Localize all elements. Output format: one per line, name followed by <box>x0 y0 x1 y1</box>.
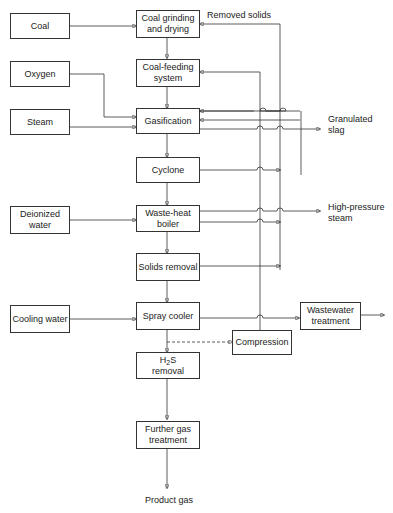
granulated-slag-label: Granulated slag <box>328 114 378 136</box>
steam-input-box: Steam <box>10 109 70 135</box>
spray-cooler-label: Spray cooler <box>143 311 194 322</box>
further-gas-treatment-box: Further gas treatment <box>136 421 200 449</box>
further-gas-label: Further gas treatment <box>138 424 198 446</box>
wastewater-label: Wastewater treatment <box>302 305 359 327</box>
wastewater-treatment-box: Wastewater treatment <box>300 302 361 330</box>
cyclone-label: Cyclone <box>152 165 185 176</box>
deionized-water-input-box: Deionized water <box>10 206 70 234</box>
h2s-suffix: S <box>170 355 176 365</box>
waste-heat-boiler-label: Waste-heat boiler <box>138 208 198 230</box>
h2s-removal-box: H2Sremoval <box>136 352 200 379</box>
product-gas-label: Product gas <box>145 495 193 506</box>
steam-label: Steam <box>27 117 53 128</box>
coal-input-box: Coal <box>10 13 70 39</box>
removed-solids-label: Removed solids <box>207 10 271 21</box>
high-pressure-steam-label: High-pressure steam <box>328 202 388 224</box>
h2s-line2: removal <box>152 366 184 376</box>
oxygen-input-box: Oxygen <box>10 61 70 87</box>
compression-label: Compression <box>235 337 288 348</box>
waste-heat-boiler-box: Waste-heat boiler <box>136 205 200 232</box>
coal-label: Coal <box>31 21 50 32</box>
h2s-removal-label: H2Sremoval <box>152 355 184 377</box>
oxygen-label: Oxygen <box>24 69 55 80</box>
cooling-water-input-box: Cooling water <box>10 305 70 333</box>
cyclone-box: Cyclone <box>136 157 200 183</box>
spray-cooler-box: Spray cooler <box>136 302 200 330</box>
coal-feeding-box: Coal-feeding system <box>136 59 200 87</box>
gasification-box: Gasification <box>136 108 200 134</box>
coal-grinding-box: Coal grinding and drying <box>136 10 200 38</box>
solids-removal-box: Solids removal <box>136 253 200 281</box>
coal-grinding-label: Coal grinding and drying <box>138 13 198 35</box>
gasification-label: Gasification <box>144 116 191 127</box>
deionized-water-label: Deionized water <box>12 209 68 231</box>
compression-box: Compression <box>232 330 292 355</box>
cooling-water-label: Cooling water <box>12 314 67 325</box>
solids-removal-label: Solids removal <box>138 262 197 273</box>
coal-feeding-label: Coal-feeding system <box>138 62 198 84</box>
